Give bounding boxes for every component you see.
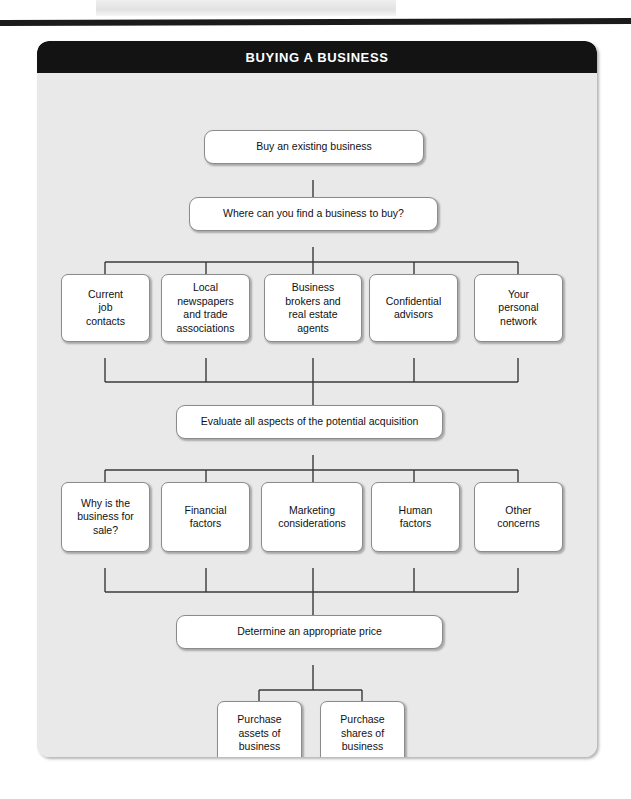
node-label-line-2: advisors (386, 308, 441, 322)
node-why-business-for-sale[interactable]: Why is the business for sale? (61, 482, 150, 552)
node-label-line-2: assets of (237, 727, 281, 741)
node-current-job-contacts[interactable]: Current job contacts (61, 274, 150, 342)
node-label-line-2: job (86, 301, 125, 315)
node-label-line-1: Local (177, 281, 235, 295)
node-determine-appropriate-price[interactable]: Determine an appropriate price (176, 615, 443, 649)
node-label-line-3: business (340, 740, 384, 754)
node-label-line-1: Other (497, 504, 540, 518)
node-financial-factors[interactable]: Financial factors (161, 482, 250, 552)
node-human-factors[interactable]: Human factors (371, 482, 460, 552)
node-label-line-2: newspapers (177, 295, 235, 309)
node-marketing-considerations[interactable]: Marketing considerations (261, 482, 363, 552)
node-label-line-4: agents (285, 322, 340, 336)
node-label-line-1: Why is the (77, 497, 134, 511)
node-label: Buy an existing business (256, 140, 372, 154)
node-label-line-2: personal (498, 301, 538, 315)
page-top-rule (0, 18, 631, 26)
node-label-line-2: brokers and (285, 295, 340, 309)
node-label-line-3: business (237, 740, 281, 754)
node-label-line-3: real estate (285, 308, 340, 322)
node-purchase-shares-of-business[interactable]: Purchase shares of business (320, 701, 405, 757)
node-label-line-1: Financial (184, 504, 226, 518)
node-label-line-1: Purchase (237, 713, 281, 727)
node-label-line-4: associations (177, 322, 235, 336)
node-label-line-2: business for (77, 510, 134, 524)
node-label: Determine an appropriate price (237, 625, 382, 639)
flowchart-body: Buy an existing business Where can you f… (37, 73, 597, 757)
node-label-line-3: contacts (86, 315, 125, 329)
node-business-brokers-real-estate-agents[interactable]: Business brokers and real estate agents (264, 274, 362, 342)
node-label-line-2: considerations (278, 517, 346, 531)
node-label-line-2: factors (184, 517, 226, 531)
node-label: Evaluate all aspects of the potential ac… (201, 415, 419, 429)
node-label-line-2: shares of (340, 727, 384, 741)
node-confidential-advisors[interactable]: Confidential advisors (369, 274, 458, 342)
node-label: Where can you find a business to buy? (223, 207, 404, 221)
node-label-line-1: Human (399, 504, 433, 518)
node-label-line-2: concerns (497, 517, 540, 531)
node-label-line-1: Business (285, 281, 340, 295)
page-edge-artifact (96, 0, 396, 16)
node-label-line-1: Confidential (386, 295, 441, 309)
node-label-line-2: factors (399, 517, 433, 531)
node-label-line-3: and trade (177, 308, 235, 322)
flowchart-card: BUYING A BUSINESS (37, 41, 597, 757)
node-label-line-1: Your (498, 288, 538, 302)
node-label-line-1: Marketing (278, 504, 346, 518)
node-label-line-1: Purchase (340, 713, 384, 727)
node-where-find-business[interactable]: Where can you find a business to buy? (189, 197, 438, 231)
node-label-line-1: Current (86, 288, 125, 302)
node-purchase-assets-of-business[interactable]: Purchase assets of business (217, 701, 302, 757)
node-buy-existing-business[interactable]: Buy an existing business (204, 130, 424, 164)
node-local-newspapers-trade-associations[interactable]: Local newspapers and trade associations (161, 274, 250, 342)
node-label-line-3: network (498, 315, 538, 329)
node-label-line-3: sale? (77, 524, 134, 538)
node-your-personal-network[interactable]: Your personal network (474, 274, 563, 342)
node-evaluate-all-aspects[interactable]: Evaluate all aspects of the potential ac… (176, 405, 443, 439)
page-title: BUYING A BUSINESS (37, 41, 597, 73)
page-canvas: BUYING A BUSINESS (0, 0, 631, 799)
node-other-concerns[interactable]: Other concerns (474, 482, 563, 552)
